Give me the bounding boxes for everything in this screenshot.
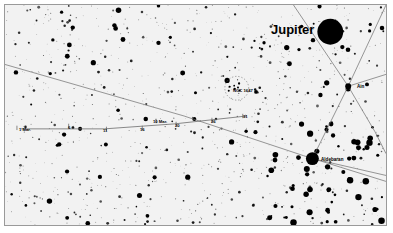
star-faint [40,197,41,198]
star-faint [148,75,149,76]
star-medium [66,21,69,24]
star-faint [111,55,112,56]
star-faint [370,203,371,204]
star-faint [316,50,317,51]
star-faint [268,110,269,111]
star-faint [154,181,155,182]
star-medium [281,138,283,140]
star-faint [114,208,115,209]
star-medium [224,45,227,48]
star-faint [97,185,98,186]
star-medium [67,49,69,51]
star-medium [371,197,374,200]
star-bright [65,169,69,173]
star-bright [62,132,66,136]
star-faint [281,42,282,43]
star-faint [74,102,75,103]
star-faint [196,103,197,104]
star-faint [243,155,244,156]
star-medium [126,27,128,29]
star-faint [275,202,276,203]
star-faint [58,213,59,214]
star-faint [115,106,116,107]
star-faint [237,62,238,63]
star-bright [254,90,258,94]
star-bright [91,60,96,65]
star-faint [76,56,77,57]
star-faint [281,31,282,32]
star-faint [315,138,316,139]
star-medium [29,9,31,11]
star-faint [6,121,7,122]
star-faint [45,83,46,84]
star-faint [238,93,239,94]
star-faint [43,23,44,24]
star-bright [369,23,372,26]
star-faint [224,11,225,12]
star-faint [276,40,277,41]
star-medium [222,75,224,77]
star-faint [31,124,32,125]
star-faint [348,58,349,59]
star-faint [322,54,323,55]
star-medium [103,86,106,89]
star-medium [380,6,382,8]
star-faint [316,67,317,68]
star-medium [234,67,236,69]
star-faint [318,130,319,131]
star-faint [212,28,213,29]
star-medium [201,148,203,150]
star-medium [36,196,38,198]
star-faint [5,172,6,173]
star-medium [269,61,272,64]
star-medium [316,105,319,108]
star-faint [129,130,130,131]
star-faint [266,38,267,39]
star-faint [175,79,176,80]
star-medium [40,210,42,212]
star-medium [18,31,21,33]
star-faint [376,132,377,133]
star-medium [100,145,102,147]
star-faint [30,44,31,45]
star-medium [108,69,111,72]
star-faint [164,90,165,91]
star-faint [189,209,190,210]
star-faint [62,144,63,145]
star-faint [97,208,98,209]
star-medium [193,131,196,134]
star-faint [262,102,263,103]
star-medium [363,213,365,215]
star-faint [351,111,352,112]
star-faint [197,204,198,205]
star-faint [118,58,119,59]
star-medium [231,198,233,200]
star-faint [184,53,185,54]
star-faint [298,91,299,92]
star-faint [175,109,176,110]
star-medium [119,69,121,71]
star-medium [68,5,70,7]
star-bright [378,217,385,224]
star-medium [315,139,317,141]
star-faint [192,20,193,21]
star-faint [36,171,37,172]
star-bright [67,43,72,48]
star-faint [166,24,167,25]
star-faint [120,33,121,34]
star-medium [251,46,253,48]
star-medium [142,36,145,39]
star-faint [277,104,278,105]
star-faint [152,181,153,182]
star-faint [141,75,142,76]
star-medium [141,152,143,154]
star-faint [29,191,30,192]
star-faint [200,100,201,101]
star-medium [226,153,228,155]
star-faint [236,120,237,121]
star-medium [138,160,140,162]
star-faint [349,13,350,14]
star-faint [329,78,330,79]
star-faint [74,63,75,64]
star-faint [116,174,117,175]
